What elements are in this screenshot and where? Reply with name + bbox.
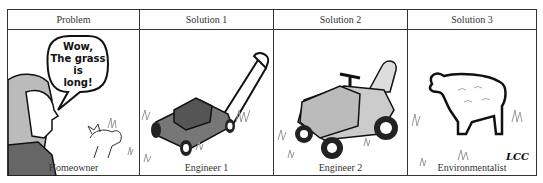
- panel-solution-3: Solution 3 LCC Environmentalist: [407, 10, 536, 175]
- panel-header: Problem: [8, 10, 139, 30]
- panel-solution-2: Solution 2 Engineer 2: [273, 10, 407, 175]
- push-mower-illustration: [140, 30, 274, 176]
- artist-signature: LCC: [505, 151, 529, 162]
- panel-caption: Engineer 2: [274, 162, 407, 173]
- panel-caption: Engineer 1: [140, 162, 273, 173]
- homeowner-illustration: Wow, The grass is long!: [8, 30, 139, 176]
- speech-line: is: [73, 65, 82, 76]
- speech-line: The grass: [51, 53, 106, 64]
- speech-line: Wow,: [63, 41, 93, 52]
- panel-header: Solution 1: [140, 10, 273, 30]
- panel-header: Solution 3: [408, 10, 536, 30]
- panel-problem: Problem Wow, The grass is long! Homeowne…: [8, 10, 139, 175]
- panel-solution-1: Solution 1 Engineer 1: [139, 10, 273, 175]
- sheep-illustration: LCC: [408, 30, 537, 176]
- speech-line: long!: [63, 77, 92, 88]
- comic-strip: Problem Wow, The grass is long! Homeowne…: [7, 9, 537, 176]
- riding-mower-illustration: [274, 30, 408, 176]
- panel-header: Solution 2: [274, 10, 407, 30]
- panel-caption: Environmentalist: [408, 162, 536, 173]
- panel-caption: Homeowner: [8, 162, 139, 173]
